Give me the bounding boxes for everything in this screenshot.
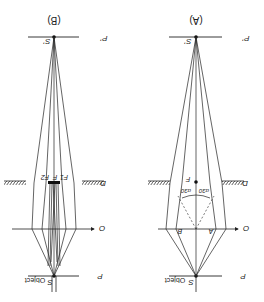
- image-plane-label: P': [242, 34, 249, 43]
- image-point-label: S': [43, 37, 50, 46]
- optics-diagram: (B) S' P' D O P F F1 F2 S Object (A) S' …: [0, 0, 264, 302]
- angle-label-right: α30: [198, 188, 209, 194]
- axis-label: O: [243, 224, 249, 233]
- object-point-label: S: [188, 278, 194, 287]
- panel-label-a: (A): [189, 15, 202, 26]
- axis-label: O: [99, 224, 105, 233]
- focal-label-f2: F2: [41, 174, 49, 181]
- panel-b: [4, 35, 104, 292]
- object-plane-label: P: [97, 272, 103, 281]
- object-text: Object: [165, 276, 185, 284]
- aperture-label: D: [100, 179, 106, 188]
- object-plane-label: P: [240, 272, 246, 281]
- image-point-label: S': [184, 37, 191, 46]
- aperture-left: [222, 181, 244, 185]
- point-label-b: B: [177, 228, 182, 235]
- object-point-label: S: [47, 278, 53, 287]
- aperture-right: [148, 181, 170, 185]
- focal-label-f: F: [52, 174, 57, 181]
- aperture-label: D: [242, 179, 248, 188]
- object-text: Object: [25, 276, 45, 284]
- panel-a: [148, 35, 244, 292]
- angle-label-left: α30: [180, 188, 191, 194]
- panel-label-b: (B): [47, 15, 60, 26]
- point-label-a: A: [208, 228, 214, 235]
- panel-b-labels: (B) S' P' D O P F F1 F2 S Object: [25, 15, 108, 287]
- focal-label-f1: F1: [60, 174, 68, 181]
- image-plane-label: P': [100, 34, 107, 43]
- focal-point-dot: [194, 180, 198, 184]
- aperture-right: [4, 181, 26, 185]
- focal-label: F: [185, 176, 190, 183]
